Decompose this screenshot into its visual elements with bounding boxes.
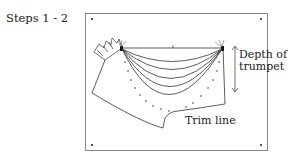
hinge-rays — [118, 40, 224, 47]
frame — [86, 14, 268, 151]
depth-arrow — [232, 46, 238, 92]
pattern-diagram — [0, 0, 291, 156]
folded-pleats — [94, 38, 122, 60]
corner-dots — [91, 18, 262, 146]
depth-of-trumpet-label: Depth of trumpet — [239, 49, 287, 73]
trim-line-label: Trim line — [185, 114, 236, 127]
depth-label-line2: trumpet — [239, 61, 287, 73]
trumpet-arcs — [122, 49, 222, 95]
